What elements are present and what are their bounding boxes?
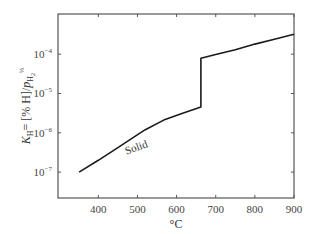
x-axis-title: °C <box>170 217 183 231</box>
y-label-p: p <box>19 82 33 89</box>
y-tick-label: 10−7 <box>34 165 53 178</box>
annotations: Solid <box>123 137 149 156</box>
y-label-p-sub2: 2 <box>30 73 36 76</box>
y-tick-label: 10−4 <box>34 47 53 60</box>
y-label-sup: ½ <box>18 68 26 73</box>
chart: 400500600700800900 10−710−610−510−4 Soli… <box>0 0 318 234</box>
x-tick-label: 400 <box>90 203 107 215</box>
annotation-solid: Solid <box>123 137 149 156</box>
x-tick-label: 900 <box>286 203 303 215</box>
x-tick-label: 600 <box>168 203 185 215</box>
x-tick-label: 700 <box>207 203 224 215</box>
series-line <box>79 34 294 172</box>
y-tick-label: 10−6 <box>34 126 53 139</box>
plot-border <box>58 14 294 198</box>
svg-text:KH= [% H]/pH2½: KH= [% H]/pH2½ <box>18 68 36 146</box>
y-label-mid: = [% H]/ <box>19 87 33 130</box>
y-axis-title: KH= [% H]/pH2½ <box>18 68 36 146</box>
x-tick-label: 500 <box>129 203 146 215</box>
x-axis-ticks: 400500600700800900 <box>90 14 303 215</box>
y-tick-label: 10−5 <box>34 86 53 99</box>
data-series <box>79 34 294 172</box>
plot-frame <box>58 14 294 198</box>
x-tick-label: 800 <box>247 203 264 215</box>
y-axis-ticks: 10−710−610−510−4 <box>34 47 294 178</box>
